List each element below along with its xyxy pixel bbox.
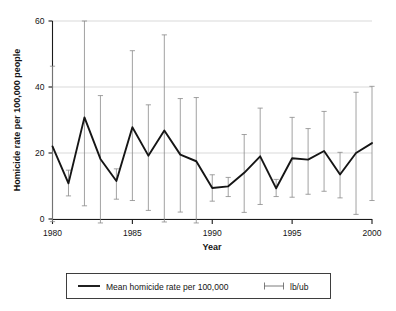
legend-label-lbub: lb/ub	[290, 282, 309, 292]
y-tick-label-40: 40	[35, 82, 45, 92]
x-axis-title: Year	[202, 242, 222, 252]
y-tick-label-60: 60	[35, 16, 45, 26]
x-tick-label-2000: 2000	[363, 228, 382, 238]
homicide-rate-line-chart: 0204060 19801985199019952000 Homicide ra…	[0, 0, 396, 311]
y-tick-label-20: 20	[35, 148, 45, 158]
x-tick-label-1985: 1985	[123, 228, 142, 238]
chart-figure: 0204060 19801985199019952000 Homicide ra…	[0, 0, 396, 311]
x-tick-label-1980: 1980	[43, 228, 62, 238]
x-tick-label-1990: 1990	[203, 228, 222, 238]
legend: Mean homicide rate per 100,000 lb/ub	[67, 274, 331, 299]
legend-label-mean: Mean homicide rate per 100,000	[106, 282, 229, 292]
y-axis-title: Homicide rate per 100,000 people	[12, 49, 22, 192]
x-tick-label-1995: 1995	[283, 228, 302, 238]
chart-background	[0, 0, 396, 311]
y-tick-label-0: 0	[40, 214, 45, 224]
